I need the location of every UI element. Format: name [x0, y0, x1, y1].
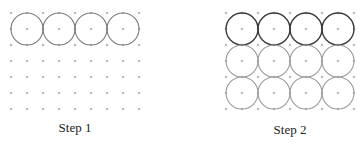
step-1-panel: Step 1 — [10, 12, 141, 135]
step-1-circles — [11, 13, 139, 45]
grid-dot — [10, 44, 13, 47]
grid-dot — [42, 60, 45, 63]
grid-dot — [10, 92, 13, 95]
grid-dot — [289, 12, 292, 15]
grid-dot — [74, 76, 77, 79]
grid-dot — [90, 76, 93, 79]
grid-dot — [241, 28, 244, 31]
grid-dot — [74, 108, 77, 111]
grid-dot — [90, 28, 93, 31]
grid-dot — [42, 108, 45, 111]
grid-dot — [289, 108, 292, 111]
grid-dot — [122, 108, 125, 111]
grid-dot — [241, 60, 244, 63]
grid-dot — [305, 60, 308, 63]
step-2-label: Step 2 — [274, 122, 307, 137]
grid-dot — [273, 28, 276, 31]
grid-dot — [106, 76, 109, 79]
grid-dot — [138, 60, 141, 63]
grid-dot — [26, 76, 29, 79]
grid-dot — [106, 12, 109, 15]
grid-dot — [257, 108, 260, 111]
grid-dot — [225, 12, 228, 15]
grid-dot — [122, 28, 125, 31]
grid-dot — [26, 60, 29, 63]
step-1-label: Step 1 — [59, 120, 92, 135]
grid-dot — [337, 92, 340, 95]
grid-dot — [321, 12, 324, 15]
grid-dot — [42, 44, 45, 47]
grid-dot — [10, 108, 13, 111]
grid-dot — [257, 44, 260, 47]
grid-dot — [353, 76, 356, 79]
grid-dot — [273, 60, 276, 63]
grid-dot — [122, 92, 125, 95]
grid-dot — [138, 44, 141, 47]
grid-dot — [289, 44, 292, 47]
grid-dot — [321, 76, 324, 79]
grid-dot — [138, 76, 141, 79]
grid-dot — [74, 60, 77, 63]
grid-dot — [225, 76, 228, 79]
step-2-circles — [226, 13, 354, 109]
grid-dot — [90, 60, 93, 63]
grid-dot — [74, 92, 77, 95]
grid-dot — [257, 76, 260, 79]
grid-dot — [353, 44, 356, 47]
grid-dot — [138, 92, 141, 95]
grid-dot — [257, 12, 260, 15]
grid-dot — [273, 92, 276, 95]
grid-dot — [74, 44, 77, 47]
grid-dot — [138, 12, 141, 15]
grid-dot — [353, 12, 356, 15]
grid-dot — [58, 28, 61, 31]
grid-dot — [337, 60, 340, 63]
grid-dot — [10, 12, 13, 15]
grid-dot — [122, 76, 125, 79]
grid-dot — [58, 92, 61, 95]
grid-dot — [225, 108, 228, 111]
grid-dot — [353, 108, 356, 111]
grid-dot — [321, 108, 324, 111]
grid-dot — [26, 108, 29, 111]
grid-dot — [58, 76, 61, 79]
grid-dot — [122, 60, 125, 63]
grid-dot — [42, 92, 45, 95]
grid-dot — [58, 108, 61, 111]
grid-dot — [305, 92, 308, 95]
grid-dot — [90, 108, 93, 111]
grid-dot — [42, 12, 45, 15]
grid-dot — [58, 60, 61, 63]
grid-dot — [106, 108, 109, 111]
grid-dot — [337, 28, 340, 31]
grid-dot — [106, 44, 109, 47]
grid-dot — [26, 92, 29, 95]
grid-dot — [74, 12, 77, 15]
grid-dot — [289, 76, 292, 79]
grid-dot — [321, 44, 324, 47]
step-diagram: Step 1 Step 2 — [0, 0, 360, 144]
grid-dot — [241, 92, 244, 95]
grid-dot — [90, 92, 93, 95]
grid-dot — [106, 60, 109, 63]
grid-dot — [138, 108, 141, 111]
grid-dot — [26, 28, 29, 31]
grid-dot — [225, 44, 228, 47]
grid-dot — [10, 76, 13, 79]
grid-dot — [10, 60, 13, 63]
grid-dot — [305, 28, 308, 31]
step-2-panel: Step 2 — [225, 12, 356, 137]
grid-dot — [42, 76, 45, 79]
grid-dot — [106, 92, 109, 95]
